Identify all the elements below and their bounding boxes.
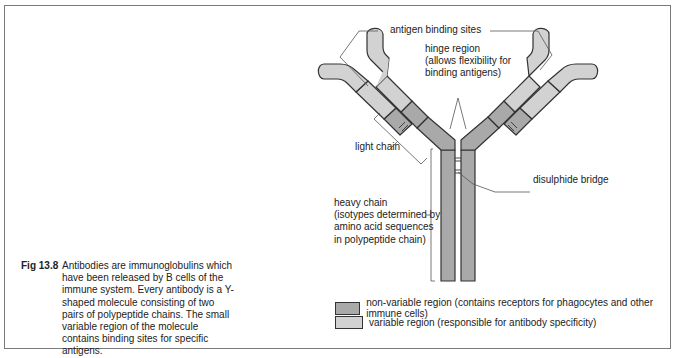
hinge-line-1: hinge region	[425, 43, 511, 55]
legend-label-variable: variable region (responsible for antibod…	[369, 317, 596, 328]
heavy-line-3: amino acid sequences	[334, 221, 440, 233]
heavy-line-1: heavy chain	[334, 197, 440, 209]
legend-swatch-variable	[335, 316, 363, 329]
heavy-chain-stem-left	[441, 150, 455, 281]
heavy-line-2: (isotypes determined by	[334, 209, 440, 221]
label-hinge-region: hinge region (allows flexibility for bin…	[425, 43, 511, 80]
heavy-chain-stem-right	[461, 150, 475, 281]
label-disulphide-bridge: disulphide bridge	[533, 174, 609, 186]
hinge-line-2: (allows flexibility for	[425, 55, 511, 67]
legend-swatch-non-variable	[335, 302, 360, 315]
disulphide-bridges	[399, 122, 517, 173]
hinge-line-3: binding antigens)	[425, 67, 511, 79]
legend-item-variable: variable region (responsible for antibod…	[335, 316, 596, 329]
label-light-chain: light chain	[355, 141, 400, 153]
label-antigen-binding-sites: antigen binding sites	[390, 24, 481, 36]
heavy-line-4: in polypeptide chain)	[334, 234, 440, 246]
label-heavy-chain: heavy chain (isotypes determined by amin…	[334, 197, 440, 246]
